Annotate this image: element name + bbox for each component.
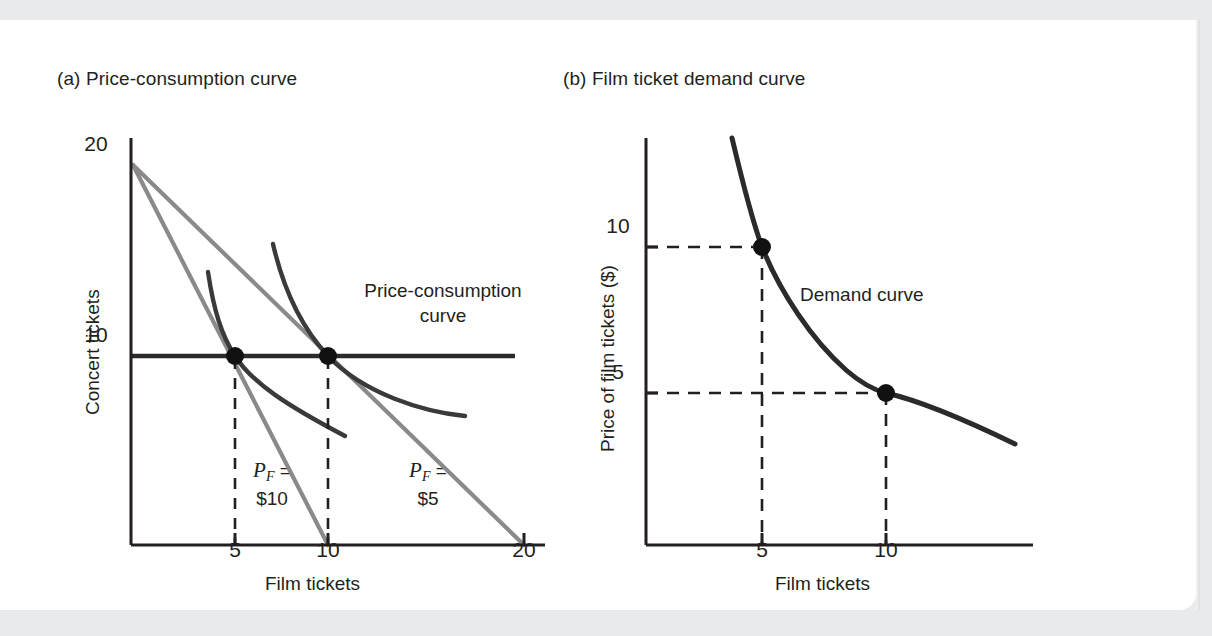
panel-a-plot	[131, 138, 545, 545]
demand-curve	[732, 138, 1015, 444]
figure-page: (a) Price-consumption curve Concert tick…	[0, 0, 1212, 636]
panel-b-plot	[646, 138, 1033, 545]
demand-point-price-10	[753, 238, 771, 256]
figure-card: (a) Price-consumption curve Concert tick…	[0, 20, 1196, 610]
optimal-point-pf-5	[319, 347, 337, 365]
optimal-point-pf-10	[226, 347, 244, 365]
figure-graphics	[0, 20, 1196, 610]
demand-point-price-5	[877, 384, 895, 402]
